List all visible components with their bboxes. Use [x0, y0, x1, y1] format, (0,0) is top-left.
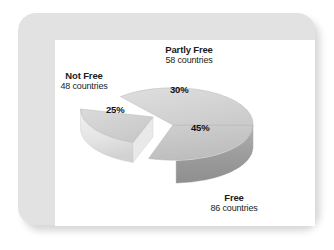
- slice-label-free-title: Free: [178, 192, 290, 203]
- slice-label-free-count: 86 countries: [178, 203, 290, 214]
- slice-percent-free: 45%: [191, 122, 209, 133]
- slice-percent-partly-free: 30%: [170, 84, 188, 95]
- slice-label-partly-free-count: 58 countries: [133, 55, 245, 66]
- slice-label-free: Free 86 countries: [178, 192, 290, 214]
- slice-label-not-free-title: Not Free: [29, 70, 139, 81]
- slice-label-not-free-count: 48 countries: [29, 81, 139, 92]
- slice-label-partly-free-title: Partly Free: [133, 44, 245, 55]
- figure-container: Partly Free 58 countries Not Free 48 cou…: [0, 0, 334, 250]
- slice-percent-not-free: 25%: [106, 104, 124, 115]
- slice-label-partly-free: Partly Free 58 countries: [133, 44, 245, 66]
- slice-label-not-free: Not Free 48 countries: [29, 70, 139, 92]
